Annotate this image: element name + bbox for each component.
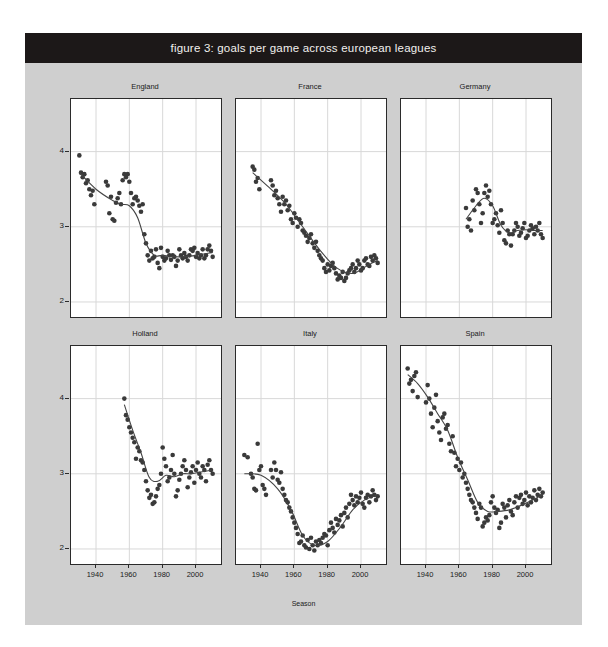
y-tick-mark (65, 473, 69, 474)
x-tick-mark (492, 564, 493, 568)
trend-line (408, 375, 543, 513)
y-tick-label: 4 (44, 146, 64, 155)
data-points (242, 441, 380, 552)
trend-line (124, 405, 212, 482)
panel-grid: England234FranceGermanyHolland2341940196… (70, 98, 550, 563)
panel-label-holland: Holland (70, 329, 220, 338)
y-tick-label: 3 (44, 221, 64, 230)
x-tick-mark (95, 564, 96, 568)
x-tick-label: 1980 (147, 570, 177, 579)
panel-holland (70, 345, 222, 565)
panel-label-france: France (235, 82, 385, 91)
y-tick-label: 3 (44, 468, 64, 477)
figure-page: figure 3: goals per game across european… (0, 0, 608, 647)
panel-label-england: England (70, 82, 220, 91)
x-tick-mark (425, 564, 426, 568)
y-tick-mark (65, 226, 69, 227)
y-tick-label: 2 (44, 543, 64, 552)
y-tick-label: 2 (44, 296, 64, 305)
x-tick-mark (327, 564, 328, 568)
x-tick-mark (162, 564, 163, 568)
x-tick-label: 1980 (477, 570, 507, 579)
x-tick-label: 2000 (180, 570, 210, 579)
y-tick-mark (65, 548, 69, 549)
figure-title: figure 3: goals per game across european… (25, 33, 582, 63)
x-tick-label: 2000 (345, 570, 375, 579)
panel-england (70, 98, 222, 318)
panel-italy (235, 345, 387, 565)
x-tick-label: 1960 (278, 570, 308, 579)
panel-label-italy: Italy (235, 329, 385, 338)
x-axis-label: Season (25, 600, 582, 607)
x-tick-mark (293, 564, 294, 568)
panel-spain (400, 345, 552, 565)
x-tick-label: 1960 (443, 570, 473, 579)
data-points (464, 183, 545, 248)
trend-line (79, 173, 212, 257)
x-tick-label: 1940 (80, 570, 110, 579)
x-tick-mark (360, 564, 361, 568)
panel-germany (400, 98, 552, 318)
x-tick-label: 1960 (113, 570, 143, 579)
panel-label-spain: Spain (400, 329, 550, 338)
y-tick-label: 4 (44, 393, 64, 402)
x-tick-label: 1980 (312, 570, 342, 579)
trend-line (253, 173, 378, 274)
x-tick-label: 1940 (245, 570, 275, 579)
panel-france (235, 98, 387, 318)
data-points (77, 153, 215, 270)
y-tick-mark (65, 301, 69, 302)
x-tick-mark (195, 564, 196, 568)
y-tick-mark (65, 151, 69, 152)
data-points (122, 396, 215, 506)
x-tick-mark (128, 564, 129, 568)
x-tick-label: 1940 (410, 570, 440, 579)
y-tick-mark (65, 398, 69, 399)
x-tick-mark (260, 564, 261, 568)
panel-label-germany: Germany (400, 82, 550, 91)
figure-title-bar: figure 3: goals per game across european… (25, 33, 582, 63)
x-tick-mark (458, 564, 459, 568)
x-tick-label: 2000 (510, 570, 540, 579)
x-tick-mark (525, 564, 526, 568)
